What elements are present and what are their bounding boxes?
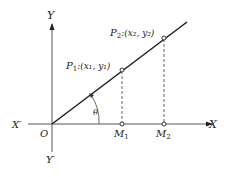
point-p1 <box>120 68 124 72</box>
p2-label: P2:(x₂, y₂) <box>109 27 155 40</box>
x-neg-axis-label: X′ <box>11 119 22 130</box>
coordinate-diagram: Y Y′ X′ X O θ P1:(x₁, y₁) P2:(x₂, y₂) M1… <box>0 0 232 177</box>
y-axis-label: Y <box>47 9 56 22</box>
point-m2 <box>162 122 166 126</box>
x-axis-label: X <box>208 118 218 131</box>
angle-label: θ <box>93 108 98 117</box>
p1-label: P1:(x₁, y₁) <box>65 60 111 73</box>
m1-label: M1 <box>113 128 129 141</box>
y-neg-axis-label: Y′ <box>46 154 56 165</box>
point-m1 <box>120 122 124 126</box>
m2-label: M2 <box>155 128 171 141</box>
point-p2 <box>162 36 166 40</box>
origin-label: O <box>40 128 48 139</box>
